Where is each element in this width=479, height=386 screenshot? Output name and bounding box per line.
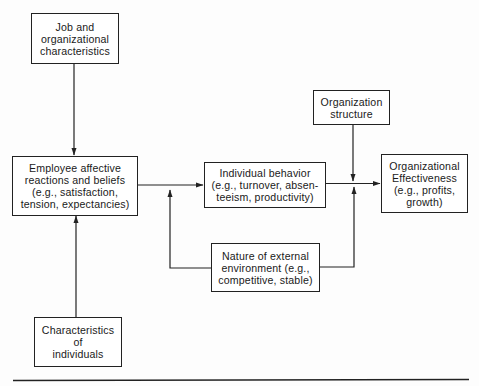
node-label: Organization structure	[321, 96, 383, 120]
node-label: Organizational Effectiveness (e.g., prof…	[389, 160, 459, 208]
node-label: Nature of external environment (e.g., co…	[218, 250, 312, 286]
node-employee-affective-reactions: Employee affective reactions and beliefs…	[12, 156, 138, 216]
node-label: Individual behavior (e.g., turnover, abs…	[211, 167, 318, 203]
node-label: Characteristics of individuals	[42, 324, 114, 360]
node-organizational-effectiveness: Organizational Effectiveness (e.g., prof…	[381, 154, 468, 213]
node-label: Employee affective reactions and beliefs…	[21, 162, 130, 210]
node-job-organizational-characteristics: Job and organizational characteristics	[31, 13, 119, 64]
flow-diagram: Job and organizational characteristics E…	[0, 0, 479, 386]
bottom-rule	[13, 380, 469, 381]
node-individual-behavior: Individual behavior (e.g., turnover, abs…	[204, 162, 326, 208]
node-characteristics-of-individuals: Characteristics of individuals	[34, 317, 122, 367]
node-label: Job and organizational characteristics	[40, 21, 110, 57]
node-external-environment: Nature of external environment (e.g., co…	[211, 243, 320, 292]
node-organization-structure: Organization structure	[313, 90, 390, 125]
